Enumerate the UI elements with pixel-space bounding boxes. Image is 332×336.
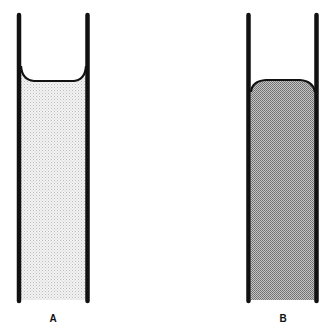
capillary-diagram [0, 0, 332, 336]
tube-a-liquid [21, 66, 86, 300]
tube-b-liquid [251, 81, 315, 300]
tube-a-label: A [49, 313, 56, 324]
tube-a-meniscus [21, 66, 86, 81]
tube-a [19, 15, 88, 301]
tube-b [249, 15, 317, 301]
tube-b-label: B [279, 313, 286, 324]
